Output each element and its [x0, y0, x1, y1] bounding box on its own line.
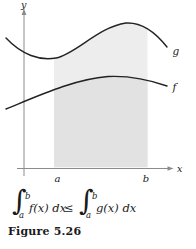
- curve-g-label: g: [173, 45, 180, 57]
- tick-label-b: b: [143, 173, 149, 184]
- tick-label-a: a: [55, 173, 61, 184]
- less-equal-sign: ≤: [64, 201, 74, 215]
- region-under-f: [6, 76, 167, 167]
- figure-page: y x g f a b ∫ b a f(x) dx ≤ ∫ b a g(x) d…: [0, 0, 196, 249]
- upper-limit-lhs: b: [25, 191, 30, 201]
- graph-canvas: y x g f a b: [0, 0, 196, 188]
- integral-inequality: ∫ b a f(x) dx ≤ ∫ b a g(x) dx: [0, 191, 196, 223]
- integrand-lhs: f(x) dx: [29, 201, 66, 215]
- x-axis-label: x: [177, 163, 183, 174]
- x-axis-arrow-icon: [168, 166, 174, 171]
- curve-f-label: f: [172, 81, 179, 93]
- lower-limit-rhs: a: [86, 210, 91, 220]
- integrand-rhs: g(x) dx: [96, 201, 136, 215]
- lower-limit-lhs: a: [19, 210, 24, 220]
- y-axis-label: y: [20, 0, 27, 10]
- upper-limit-rhs: b: [92, 191, 97, 201]
- figure-caption: Figure 5.26: [8, 225, 81, 238]
